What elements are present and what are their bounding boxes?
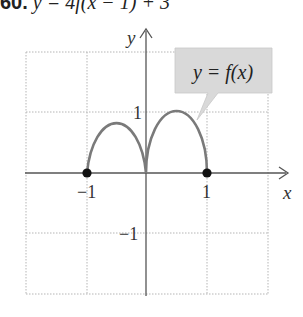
callout: y = f(x)	[175, 48, 272, 120]
x-tick-1: 1	[202, 182, 211, 202]
callout-label: y = f(x)	[191, 61, 253, 84]
graph: x y −1 1 1 −1 y = f(x)	[0, 0, 303, 317]
function-curve	[87, 111, 207, 173]
y-tick-neg1: −1	[119, 224, 138, 244]
y-axis-label: y	[125, 27, 136, 48]
x-axis-label: x	[282, 182, 292, 203]
point-neg1-0	[82, 168, 91, 177]
x-tick-neg1: −1	[77, 182, 96, 202]
y-tick-1: 1	[133, 103, 142, 123]
point-1-0	[202, 168, 211, 177]
x-axis	[25, 167, 288, 179]
